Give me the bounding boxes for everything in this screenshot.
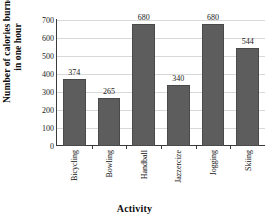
bar-value-label: 680	[196, 13, 231, 22]
bars-layer: 374265680340680544	[57, 20, 265, 146]
x-label-skiing: Skiing	[243, 150, 252, 171]
bar-slot: 680	[196, 20, 231, 146]
bar-value-label: 265	[92, 87, 127, 96]
x-label-bowling: Bowling	[104, 150, 113, 178]
y-tick-label: 200	[28, 106, 54, 115]
bar-value-label: 544	[230, 37, 265, 46]
x-label-slot: Skiing	[230, 150, 265, 200]
y-axis-title-line1: Number of calories burned	[2, 0, 13, 103]
y-tick-label: 300	[28, 88, 54, 97]
bar-slot: 340	[161, 20, 196, 146]
x-label-slot: Handball	[126, 150, 161, 200]
bar-bowling[interactable]	[98, 98, 121, 146]
x-axis-title: Activity	[0, 203, 269, 214]
x-label-handball: Handball	[139, 150, 148, 179]
x-label-slot: Bowling	[92, 150, 127, 200]
bar-chart: Number of calories burned in one hour 01…	[0, 0, 269, 221]
x-label-slot: Jogging	[196, 150, 231, 200]
bar-value-label: 680	[126, 13, 161, 22]
y-tick-label: 700	[28, 16, 54, 25]
x-axis-tick	[196, 145, 197, 149]
x-label-bicycling: Bicycling	[70, 150, 79, 181]
bar-value-label: 374	[57, 68, 92, 77]
bar-jogging[interactable]	[202, 24, 225, 146]
bar-jazzercize[interactable]	[167, 85, 190, 146]
x-label-jazzercize: Jazzercize	[174, 150, 183, 183]
x-axis-tick	[92, 145, 93, 149]
x-axis-category-labels: BicyclingBowlingHandballJazzercizeJoggin…	[57, 150, 265, 200]
y-tick-label: 400	[28, 70, 54, 79]
bar-slot: 374	[57, 20, 92, 146]
y-tick-label: 0	[28, 142, 54, 151]
bar-slot: 680	[126, 20, 161, 146]
x-label-slot: Jazzercize	[161, 150, 196, 200]
bar-handball[interactable]	[132, 24, 155, 146]
x-label-slot: Bicycling	[57, 150, 92, 200]
x-axis-tick	[126, 145, 127, 149]
x-axis-tick	[230, 145, 231, 149]
bar-bicycling[interactable]	[63, 79, 86, 146]
bar-slot: 544	[230, 20, 265, 146]
bar-slot: 265	[92, 20, 127, 146]
y-axis-tick-labels: 0100200300400500600700	[26, 20, 54, 146]
x-axis-tick	[161, 145, 162, 149]
y-tick-label: 600	[28, 34, 54, 43]
x-label-jogging: Jogging	[208, 150, 217, 175]
y-tick-label: 500	[28, 52, 54, 61]
y-tick-label: 100	[28, 124, 54, 133]
y-axis-title: Number of calories burned in one hour	[0, 0, 26, 112]
bar-value-label: 340	[161, 74, 196, 83]
y-axis-title-line2: in one hour	[13, 23, 24, 71]
bar-skiing[interactable]	[236, 48, 259, 146]
